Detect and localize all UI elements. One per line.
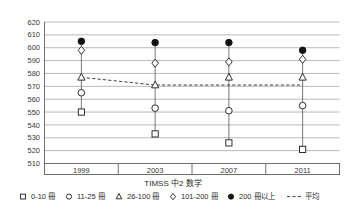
timss-book-count-score-chart: 620610600590580570560550540530520510 199…	[0, 0, 347, 210]
data-point-200冊以上-2011	[299, 47, 306, 54]
data-point-101-200冊-2007	[226, 58, 233, 66]
data-point-11-25冊-1999	[78, 89, 85, 96]
data-point-26-100冊-1999	[78, 73, 85, 80]
series-stems	[81, 41, 302, 149]
x-axis-category-separators	[118, 164, 266, 175]
legend-label-5: 平均	[305, 191, 319, 201]
legend-label-3: 101-200 冊	[181, 192, 219, 201]
x-tick-label-2003: 2003	[147, 166, 164, 175]
data-point-11-25冊-2007	[226, 107, 233, 114]
y-tick-label-590: 590	[27, 56, 40, 65]
y-axis-tick-labels: 620610600590580570560550540530520510	[27, 18, 40, 169]
legend-label-0: 0-10 冊	[31, 192, 56, 201]
data-point-11-25冊-2011	[299, 102, 306, 109]
data-point-200冊以上-2003	[152, 39, 159, 46]
y-tick-label-510: 510	[27, 159, 40, 168]
data-point-26-100冊-2011	[299, 73, 306, 80]
x-tick-label-2011: 2011	[295, 166, 311, 175]
chart-container: 620610600590580570560550540530520510 199…	[0, 0, 347, 210]
gridlines	[45, 22, 340, 151]
average-series-line	[81, 77, 302, 85]
legend-item-3: 101-200 冊	[170, 192, 218, 201]
legend-item-5: 平均	[287, 191, 319, 201]
legend-item-4: 200 冊以上	[228, 192, 275, 201]
data-point-101-200冊-2011	[299, 55, 306, 63]
y-tick-label-540: 540	[27, 121, 40, 130]
y-tick-label-560: 560	[27, 95, 40, 104]
y-tick-label-520: 520	[27, 146, 40, 155]
legend-item-0: 0-10 冊	[21, 192, 57, 201]
legend-marker-filled-circle	[228, 194, 233, 199]
y-tick-label-580: 580	[27, 69, 40, 78]
data-point-0-10冊-1999	[78, 109, 84, 115]
y-tick-label-570: 570	[27, 82, 40, 91]
legend-label-2: 26-100 冊	[127, 192, 160, 201]
legend-marker-open-square	[21, 194, 26, 199]
data-point-11-25冊-2003	[152, 105, 159, 112]
legend-marker-open-circle	[66, 194, 71, 199]
legend-item-2: 26-100 冊	[116, 192, 160, 201]
x-tick-label-2007: 2007	[221, 166, 238, 175]
data-point-200冊以上-2007	[226, 39, 233, 46]
y-tick-label-620: 620	[27, 18, 40, 27]
x-axis-title: TIMSS 中2 数学	[144, 178, 201, 188]
legend-item-1: 11-25 冊	[66, 192, 105, 201]
chart-legend: 0-10 冊11-25 冊26-100 冊101-200 冊200 冊以上平均	[21, 191, 319, 201]
data-point-0-10冊-2003	[152, 131, 158, 137]
x-tick-label-1999: 1999	[73, 166, 90, 175]
data-point-200冊以上-1999	[78, 38, 85, 45]
y-tick-label-600: 600	[27, 43, 40, 52]
data-point-0-10冊-2007	[226, 140, 232, 146]
legend-label-1: 11-25 冊	[77, 192, 106, 201]
legend-marker-open-diamond	[170, 193, 175, 199]
y-tick-label-550: 550	[27, 108, 40, 117]
legend-label-4: 200 冊以上	[239, 192, 276, 201]
data-point-0-10冊-2011	[300, 146, 306, 152]
data-point-26-100冊-2007	[225, 73, 232, 80]
y-tick-label-610: 610	[27, 30, 40, 39]
legend-marker-open-triangle	[116, 194, 122, 199]
average-line	[81, 77, 302, 85]
y-tick-label-530: 530	[27, 133, 40, 142]
series-markers	[78, 38, 306, 152]
